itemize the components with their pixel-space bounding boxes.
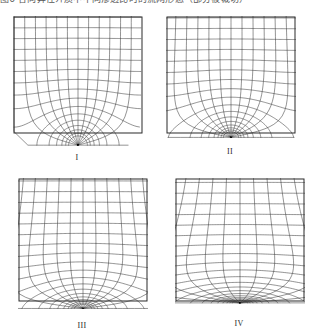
panel-label-2: II [166,147,294,156]
flow-net-drawing-1 [13,16,143,149]
panel-label-1: I [13,153,141,162]
flow-net-panel-4: IV [175,178,303,315]
cut-off-caption-text: 图6 各向异性介质中不同渗透比时的流网形态（部分被裁切） [0,0,322,5]
panel-label-3: III [18,321,146,329]
panel-label-4: IV [175,319,303,328]
flow-net-drawing-3 [18,178,148,317]
flow-net-panel-3: III [18,178,146,317]
flow-net-drawing-4 [175,178,305,315]
flow-net-panel-1: I [13,16,141,149]
figure-page: 图6 各向异性介质中不同渗透比时的流网形态（部分被裁切） I II III IV [0,0,322,329]
flow-net-drawing-2 [166,16,296,143]
flow-net-panel-2: II [166,16,294,143]
